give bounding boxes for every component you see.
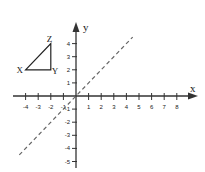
x-axis <box>13 93 198 100</box>
x-tick-label: -4 <box>23 104 29 110</box>
x-axis-label: x <box>190 82 196 94</box>
vertex-label-y: Y <box>52 66 59 76</box>
y-tick-label: -4 <box>65 145 71 151</box>
vertex-label-z: Z <box>47 34 53 44</box>
vertex-label-x: X <box>17 65 24 75</box>
y-axis-label: y <box>83 21 89 33</box>
x-tick-label: -2 <box>48 104 54 110</box>
y-ticks: 4321-1-2-3-4-5 <box>65 41 77 165</box>
x-tick-label: 6 <box>150 104 154 110</box>
x-tick-label: -3 <box>36 104 42 110</box>
x-tick-label: 3 <box>112 104 116 110</box>
y-tick-label: -5 <box>65 159 71 165</box>
x-tick-label: 1 <box>87 104 91 110</box>
coordinate-plane: -4-3-2-112345678 4321-1-2-3-4-5 x y X Y … <box>0 0 205 172</box>
x-tick-label: 7 <box>163 104 167 110</box>
y-tick-label: 4 <box>67 41 71 47</box>
x-tick-label: 8 <box>175 104 179 110</box>
y-tick-label: 2 <box>67 67 71 73</box>
y-axis-arrow-icon <box>73 22 80 32</box>
x-tick-label: 2 <box>100 104 104 110</box>
y-tick-label: -3 <box>65 132 71 138</box>
x-tick-label: 4 <box>125 104 129 110</box>
y-tick-label: -2 <box>65 119 71 125</box>
y-tick-label: 1 <box>67 80 71 86</box>
triangle-xyz <box>26 44 51 70</box>
y-tick-label: 3 <box>67 54 71 60</box>
x-tick-label: 5 <box>137 104 141 110</box>
